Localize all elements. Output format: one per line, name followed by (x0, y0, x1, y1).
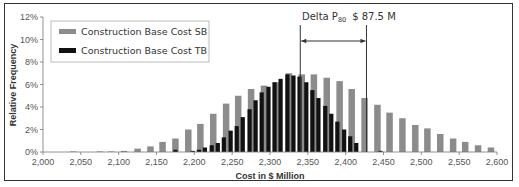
bar-tb (304, 82, 308, 152)
bar-sb (399, 118, 406, 152)
bar-tb (216, 143, 220, 152)
x-tick-label: 2,200 (183, 157, 206, 167)
bar-tb (247, 109, 251, 152)
x-tick-label: 2,400 (334, 157, 357, 167)
legend: Construction Base Cost SB Construction B… (51, 21, 209, 62)
arrowhead-right-icon (360, 39, 365, 43)
y-tick-label: 12% (20, 12, 38, 22)
bar-sb (424, 128, 431, 152)
bar-tb (260, 92, 264, 152)
x-tick-label: 2,100 (107, 157, 130, 167)
bar-tb (323, 106, 327, 152)
bar-tb (241, 117, 245, 152)
legend-swatch-tb (59, 48, 76, 53)
bar-sb (386, 113, 393, 152)
bar-sb (437, 134, 444, 152)
x-tick-label: 2,250 (221, 157, 244, 167)
bar-tb (348, 136, 352, 152)
x-tick-label: 2,350 (297, 157, 320, 167)
x-tick-label: 2,050 (70, 157, 93, 167)
x-tick-label: 2,500 (410, 157, 433, 167)
bar-tb (272, 82, 276, 152)
delta-label: Delta P80$ 87.5 M (302, 11, 396, 24)
bar-tb (254, 100, 258, 152)
bar-tb (316, 98, 320, 152)
y-tick-label: 8% (25, 57, 38, 67)
bar-sb (185, 130, 192, 153)
bar-sb (197, 124, 204, 152)
delta-label-subscript: 80 (338, 16, 346, 24)
y-axis-title: Relative Frequency (8, 44, 18, 127)
bar-sb (147, 146, 154, 152)
x-tick-label: 2,550 (448, 157, 471, 167)
bar-tb (342, 130, 346, 153)
bar-tb (291, 76, 295, 153)
y-tick-label: 0% (25, 147, 38, 157)
bar-tb (203, 148, 207, 153)
legend-label-sb: Construction Base Cost SB (81, 26, 207, 37)
y-tick-label: 6% (25, 80, 38, 90)
bar-tb (310, 90, 314, 152)
y-tick-label: 10% (20, 35, 38, 45)
histogram-chart: 0%2%4%6%8%10%12%2,0002,0502,1002,1502,20… (0, 0, 519, 187)
x-tick-label: 2,000 (32, 157, 55, 167)
bar-sb (450, 139, 457, 153)
bar-sb (374, 105, 381, 152)
delta-label-main: Delta P (302, 11, 338, 22)
bar-tb (266, 87, 270, 152)
y-tick-label: 2% (25, 125, 38, 135)
bar-sb (134, 149, 141, 152)
arrowhead-left-icon (301, 39, 306, 43)
y-tick-label: 4% (25, 102, 38, 112)
x-tick-label: 2,450 (372, 157, 395, 167)
bar-tb (354, 143, 358, 152)
bar-tb (297, 77, 301, 152)
bar-sb (462, 142, 469, 152)
delta-label-value: $ 87.5 M (352, 11, 396, 22)
x-tick-label: 2,150 (145, 157, 168, 167)
bar-tb (222, 137, 226, 152)
x-axis-title: Cost in $ Million (236, 171, 305, 181)
bar-tb (235, 126, 239, 152)
bar-tb (278, 79, 282, 152)
x-tick-label: 2,600 (486, 157, 509, 167)
bar-tb (329, 114, 333, 152)
bar-sb (475, 145, 482, 152)
bar-tb (229, 131, 233, 152)
bar-tb (335, 122, 339, 152)
bar-tb (210, 145, 214, 152)
bar-sb (159, 142, 166, 152)
x-tick-label: 2,300 (259, 157, 282, 167)
bar-sb (488, 148, 495, 153)
bar-tb (285, 74, 289, 152)
legend-swatch-sb (59, 29, 76, 34)
bar-sb (412, 125, 419, 152)
legend-label-tb: Construction Base Cost TB (81, 45, 207, 56)
